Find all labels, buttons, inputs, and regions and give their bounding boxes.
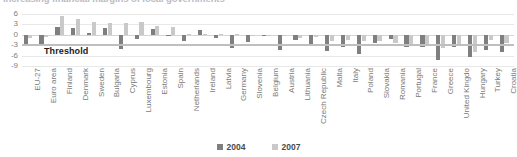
x-axis-label: Bulgaria — [112, 68, 121, 97]
bar-2007 — [250, 35, 254, 36]
bar-2007 — [124, 23, 128, 35]
bar-2004 — [87, 33, 91, 35]
y-axis-tick-label: 6 — [14, 10, 18, 18]
x-axis-label: Belgium — [271, 68, 280, 97]
bar-2007 — [28, 35, 32, 38]
bar-2007 — [393, 35, 397, 44]
x-axis-label: Cyprus — [128, 68, 137, 93]
bar-2004 — [373, 35, 377, 43]
bar-2007 — [425, 35, 429, 44]
bar-group — [244, 14, 260, 66]
x-axis-label: Netherlands — [192, 68, 201, 111]
x-axis-label: Spain — [176, 68, 185, 88]
legend-swatch-icon — [272, 144, 278, 150]
x-axis-label: Lithuania — [303, 68, 312, 100]
bar-2007 — [489, 35, 493, 41]
x-axis-label: Euro area — [49, 68, 58, 103]
x-axis-label: Slovenia — [255, 68, 264, 99]
plot-area — [22, 14, 514, 66]
y-axis: 630-3-6-9 — [0, 14, 20, 66]
bar-2004 — [135, 35, 139, 39]
bar-2004 — [103, 28, 107, 35]
bar-group — [403, 14, 419, 66]
bar-2004 — [55, 27, 59, 35]
bar-2004 — [309, 35, 313, 45]
x-axis-label: Germany — [239, 68, 248, 101]
gridline — [22, 66, 514, 67]
bar-2007 — [171, 27, 175, 35]
bar-chart: Increasing financial margins of local go… — [0, 0, 517, 157]
bar-group — [197, 14, 213, 66]
bar-2007 — [76, 19, 80, 35]
x-axis-label: Czech Republic — [319, 68, 328, 124]
x-axis-label: Turkey — [493, 68, 502, 92]
bar-2007 — [92, 22, 96, 34]
bar-2007 — [44, 35, 48, 37]
bar-2007 — [155, 26, 159, 35]
x-axis-label: Finland — [65, 68, 74, 94]
bar-group — [355, 14, 371, 66]
threshold-line — [22, 44, 514, 46]
legend-item: 2004 — [217, 143, 246, 152]
bar-2007 — [330, 35, 334, 41]
x-axis-label: Sweden — [97, 68, 106, 97]
bar-group — [101, 14, 117, 66]
x-axis-label: France — [430, 68, 439, 93]
bar-group — [387, 14, 403, 66]
bar-2004 — [500, 35, 504, 52]
bar-group — [117, 14, 133, 66]
bar-group — [419, 14, 435, 66]
bar-group — [435, 14, 451, 66]
bar-2004 — [214, 35, 218, 38]
bar-2004 — [389, 35, 393, 39]
bar-group — [498, 14, 514, 66]
bar-2007 — [235, 34, 239, 35]
bar-2004 — [24, 35, 28, 45]
x-axis-label: Slovakia — [382, 68, 391, 98]
bar-2007 — [108, 23, 112, 35]
legend-swatch-icon — [217, 144, 223, 150]
x-axis-category-labels: EU-27Euro areaFinlandDenmarkSwedenBulgar… — [22, 68, 514, 130]
bar-2007 — [60, 16, 64, 34]
bar-2007 — [504, 35, 508, 44]
bar-2004 — [325, 35, 329, 51]
y-axis-tick-label: 0 — [14, 31, 18, 39]
bar-group — [339, 14, 355, 66]
y-axis-tick-label: 3 — [14, 20, 18, 28]
bar-group — [70, 14, 86, 66]
bar-2004 — [484, 35, 488, 50]
bar-group — [308, 14, 324, 66]
x-axis-label: Italy — [351, 68, 360, 83]
bar-2004 — [293, 35, 297, 40]
bar-2004 — [71, 28, 75, 35]
x-axis-label: EU-27 — [33, 68, 42, 91]
bar-group — [292, 14, 308, 66]
bar-2004 — [246, 35, 250, 43]
x-axis-label: Ireland — [208, 68, 217, 92]
bar-group — [228, 14, 244, 66]
x-axis-label: Latvia — [224, 68, 233, 89]
bar-2007 — [457, 35, 461, 44]
bar-group — [260, 14, 276, 66]
x-axis-label: Hungary — [478, 68, 487, 98]
bar-2007 — [219, 34, 223, 35]
y-axis-tick-label: -3 — [11, 41, 18, 49]
bar-group — [85, 14, 101, 66]
bar-group — [133, 14, 149, 66]
bar-group — [149, 14, 165, 66]
bar-2004 — [436, 35, 440, 61]
y-axis-tick-label: -6 — [11, 52, 18, 60]
bar-group — [371, 14, 387, 66]
bar-group — [38, 14, 54, 66]
bar-2007 — [298, 35, 302, 38]
bar-group — [466, 14, 482, 66]
chart-title: Increasing financial margins of local go… — [3, 0, 433, 5]
x-axis-label: Portugal — [414, 68, 423, 98]
x-axis-label: United Kingdo — [462, 68, 471, 118]
y-axis-tick-label: -9 — [11, 62, 18, 70]
bar-2007 — [409, 35, 413, 44]
bar-group — [165, 14, 181, 66]
bar-2004 — [468, 35, 472, 58]
bar-group — [324, 14, 340, 66]
bar-2007 — [203, 34, 207, 35]
